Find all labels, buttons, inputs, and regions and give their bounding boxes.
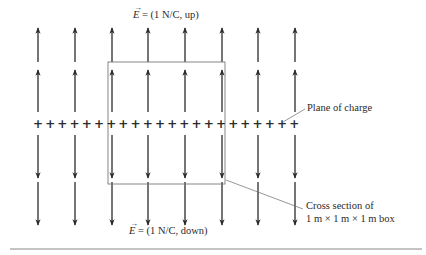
positive-charge: +	[118, 117, 128, 131]
positive-charge: +	[131, 117, 141, 131]
positive-charge: +	[33, 117, 43, 131]
positive-charge: +	[45, 117, 55, 131]
positive-charge: +	[179, 117, 189, 131]
box-label-line1: Cross section of	[306, 200, 374, 212]
positive-charge: +	[70, 117, 80, 131]
positive-charge: +	[106, 117, 116, 131]
plane-of-charge-label: Plane of charge	[307, 102, 372, 114]
positive-charge: +	[167, 117, 177, 131]
positive-charge: +	[216, 117, 226, 131]
positive-charge: +	[155, 117, 165, 131]
positive-charge: +	[228, 117, 238, 131]
positive-charge: +	[289, 117, 299, 131]
positive-charge: +	[143, 117, 153, 131]
positive-charge: +	[277, 117, 287, 131]
positive-charge: +	[94, 117, 104, 131]
positive-charge: +	[204, 117, 214, 131]
positive-charge: +	[57, 117, 67, 131]
plane-of-charge: ++++++++++++++++++++++	[33, 117, 299, 131]
e-vector-symbol: E	[129, 225, 135, 236]
positive-charge: +	[253, 117, 263, 131]
positive-charge: +	[192, 117, 202, 131]
e-vector-symbol: E	[133, 9, 139, 20]
field-up-label: E = (1 N/C, up)	[133, 9, 199, 21]
box-label-line2: 1 m × 1 m × 1 m box	[306, 213, 395, 225]
positive-charge: +	[240, 117, 250, 131]
field-down-label: E = (1 N/C, down)	[129, 225, 208, 237]
positive-charge: +	[265, 117, 275, 131]
box-leader-line	[226, 180, 303, 209]
positive-charge: +	[82, 117, 92, 131]
